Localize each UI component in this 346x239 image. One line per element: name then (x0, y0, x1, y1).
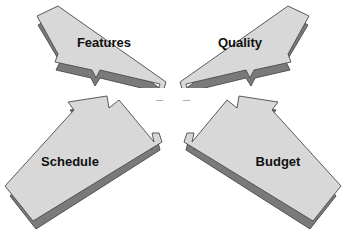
center-gap-vertical (165, 58, 179, 180)
arrow-budget: Budget (184, 96, 341, 229)
arrow-quality: Quality (180, 6, 309, 100)
arrow-quality-label: Quality (218, 35, 263, 50)
arrow-schedule-label: Schedule (41, 154, 99, 169)
converging-arrows-diagram: Features Quality Schedule Budget (0, 0, 346, 239)
arrow-budget-label: Budget (256, 154, 301, 169)
arrow-features: Features (37, 6, 166, 100)
center-gap-horizontal (120, 88, 232, 100)
arrow-features-label: Features (77, 35, 131, 50)
diagram-canvas: Features Quality Schedule Budget (0, 0, 346, 239)
arrow-schedule: Schedule (5, 96, 162, 229)
